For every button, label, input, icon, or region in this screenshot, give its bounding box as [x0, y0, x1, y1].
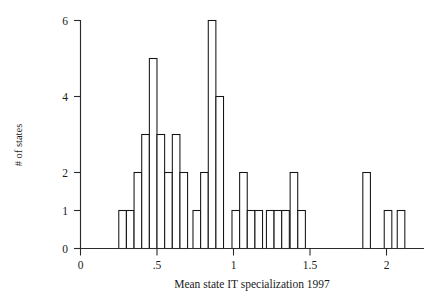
histogram-bar: [142, 135, 150, 249]
y-ticks-group: 01246: [62, 15, 80, 255]
histogram-bar: [298, 211, 306, 249]
x-tick-label: 0: [78, 259, 84, 271]
y-tick-label: 0: [62, 243, 68, 255]
histogram-bar: [180, 173, 188, 249]
histogram-bar: [255, 211, 263, 249]
histogram-bar: [247, 211, 255, 249]
histogram-bar: [216, 97, 224, 249]
histogram-bar: [165, 173, 173, 249]
histogram-bar: [208, 21, 216, 249]
histogram-bar: [134, 173, 142, 249]
histogram-bar: [290, 173, 298, 249]
histogram-bar: [157, 135, 165, 249]
y-tick-label: 2: [62, 167, 68, 179]
histogram-bar: [274, 211, 282, 249]
y-axis-title: # of states: [13, 124, 24, 167]
x-axis-title: Mean state IT specialization 1997: [174, 278, 330, 291]
histogram-figure: 0.511.52 01246 Mean state IT specializat…: [0, 0, 440, 307]
bars-group: [119, 21, 405, 249]
histogram-bar: [149, 59, 157, 249]
histogram-bar: [126, 211, 134, 249]
histogram-bar: [193, 211, 201, 249]
x-tick-label: .5: [153, 259, 162, 271]
x-tick-label: 1.5: [303, 259, 318, 271]
histogram-bar: [201, 173, 209, 249]
y-tick-label: 4: [62, 91, 68, 103]
histogram-bar: [240, 173, 248, 249]
y-tick-label: 1: [62, 205, 68, 217]
histogram-bar: [172, 135, 180, 249]
histogram-bar: [282, 211, 290, 249]
x-tick-label: 2: [384, 259, 390, 271]
histogram-bar: [266, 211, 274, 249]
x-ticks-group: 0.511.52: [78, 249, 390, 272]
histogram-bar: [384, 211, 392, 249]
histogram-plot: 0.511.52 01246 Mean state IT specializat…: [0, 0, 440, 307]
y-tick-label: 6: [62, 15, 68, 27]
histogram-bar: [232, 211, 240, 249]
histogram-bar: [397, 211, 405, 249]
x-tick-label: 1: [231, 259, 237, 271]
histogram-bar: [363, 173, 371, 249]
histogram-bar: [119, 211, 127, 249]
